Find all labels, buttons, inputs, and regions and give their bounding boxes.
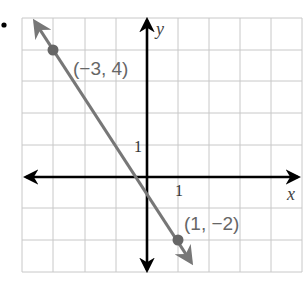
y-tick-label: 1	[134, 138, 142, 155]
grid	[22, 18, 302, 272]
point-1-neg2	[173, 235, 184, 246]
problem-marker	[1, 22, 6, 27]
coordinate-graph: y x 1 1 (−3, 4) (1, −2)	[0, 0, 305, 289]
x-tick-label: 1	[175, 182, 183, 199]
point-label-1-neg2: (1, −2)	[184, 213, 239, 234]
point-neg3-4	[48, 45, 59, 56]
point-label-neg3-4: (−3, 4)	[73, 58, 128, 79]
x-axis-label: x	[286, 184, 295, 204]
y-axis-label: y	[154, 19, 164, 39]
